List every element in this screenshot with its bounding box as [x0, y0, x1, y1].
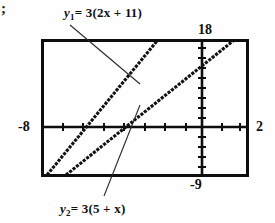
calculator-screen-plot — [0, 0, 275, 223]
plot-frame — [43, 41, 248, 176]
figure-container: ; y1= 3(2x + 11) y2= 3(5 + x) -8 2 18 -9 — [0, 0, 275, 223]
